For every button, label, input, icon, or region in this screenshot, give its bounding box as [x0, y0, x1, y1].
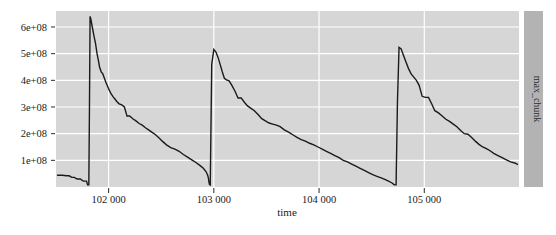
x-tick-label-1: 103 000 [197, 194, 231, 205]
chart-figure: 1e+082e+083e+084e+085e+086e+08 102 00010… [0, 0, 556, 235]
y-tick-label-3: 4e+08 [21, 75, 47, 86]
x-tick-label-2: 104 000 [302, 194, 336, 205]
y-tick-label-1: 2e+08 [21, 128, 47, 139]
x-tick-label-0: 102 000 [92, 194, 126, 205]
y-tick-label-2: 3e+08 [21, 102, 47, 113]
x-tick-label-3: 105 000 [407, 194, 441, 205]
y-tick-label-0: 1e+08 [21, 155, 47, 166]
chart-svg: 1e+082e+083e+084e+085e+086e+08 102 00010… [0, 0, 556, 235]
strip-panel-label: max_chunk [532, 76, 543, 123]
y-tick-label-4: 5e+08 [21, 48, 47, 59]
x-axis-title: time [277, 206, 297, 218]
y-tick-label-5: 6e+08 [21, 22, 47, 33]
